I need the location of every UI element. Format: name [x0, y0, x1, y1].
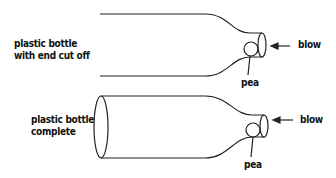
top-bottle-outline-lower	[100, 57, 262, 76]
top-bottle-label-line1: plastic bottle	[14, 38, 77, 50]
top-pea-pointer	[248, 56, 250, 75]
bottom-pea-pointer	[251, 137, 253, 157]
top-pea-label: pea	[241, 77, 259, 89]
bottom-pea-icon	[246, 123, 260, 137]
bottom-bottle-label-line1: plastic bottle	[31, 114, 94, 126]
top-bottle-label-line2: with end cut off	[14, 50, 90, 62]
top-bottle-mouth	[258, 33, 266, 57]
bottom-blow-label: blow	[300, 114, 323, 126]
top-pea-icon	[244, 42, 258, 56]
top-blow-label: blow	[298, 39, 321, 51]
bottle-diagram	[0, 0, 336, 178]
bottom-pea-label: pea	[244, 159, 262, 171]
bottom-bottle-label-line2: complete	[31, 126, 76, 138]
bottom-bottle-outline-lower	[101, 137, 264, 158]
top-bottle-outline-upper	[100, 14, 262, 33]
bottom-bottle-mouth	[260, 115, 268, 137]
bottom-bottle-base	[94, 96, 108, 158]
bottom-arrow-head-icon	[273, 117, 280, 123]
bottom-bottle-outline-upper	[101, 96, 264, 115]
top-arrow-head-icon	[271, 43, 278, 49]
